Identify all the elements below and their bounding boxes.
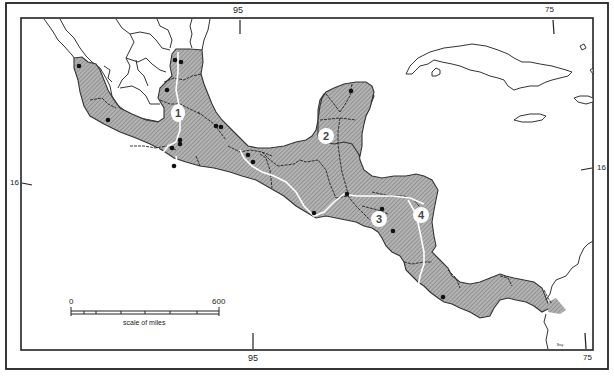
hispaniola-outline: [574, 96, 593, 104]
site-dot: [173, 58, 178, 63]
site-dot: [251, 160, 256, 165]
longitude-label-bottom-95: 95: [248, 354, 258, 363]
jamaica-outline: [514, 114, 546, 122]
site-dot: [246, 153, 251, 158]
scale-end-label: 600: [212, 298, 225, 306]
latitude-label-right-16: 16: [597, 164, 606, 172]
site-dot: [312, 211, 317, 216]
site-dot: [178, 142, 183, 147]
region-marker-4: 4: [413, 207, 429, 223]
longitude-label-bottom-75: 75: [583, 354, 592, 362]
longitude-label-top-95: 95: [233, 6, 243, 15]
site-dot: [178, 138, 183, 143]
caribbean-islands: [406, 44, 593, 122]
longitude-label-top-75: 75: [545, 6, 554, 14]
south-america-coastline: [544, 241, 593, 349]
site-dot: [170, 146, 175, 151]
site-dot: [349, 89, 354, 94]
site-dot: [391, 229, 396, 234]
site-dot: [77, 64, 82, 69]
site-dot: [106, 118, 111, 123]
gulf-coast-outline: [202, 19, 210, 50]
site-dot: [172, 164, 177, 169]
site-dot: [441, 295, 446, 300]
latitude-label-left-16: 16: [10, 179, 19, 187]
map-credit: Bray: [557, 344, 563, 347]
scale-start-label: 0: [69, 298, 73, 306]
region-marker-3: 3: [371, 211, 387, 227]
region-marker-1: 1: [171, 104, 185, 122]
region-marker-2: 2: [318, 128, 334, 144]
scale-bar: [71, 307, 219, 316]
site-dot: [165, 88, 170, 93]
shaded-region-darien: [548, 298, 566, 314]
shaded-region-mexico-central-america: [74, 49, 550, 318]
cuba-outline: [406, 44, 572, 90]
isle-of-youth-outline: [432, 68, 440, 76]
site-dot: [345, 192, 350, 197]
small-island-outline: [590, 68, 593, 74]
map-canvas: [0, 0, 614, 376]
site-dot: [179, 60, 184, 65]
site-dot: [219, 125, 224, 130]
site-dot: [214, 124, 219, 129]
small-island-outline: [580, 44, 586, 50]
scale-caption: scale of miles: [123, 319, 165, 326]
